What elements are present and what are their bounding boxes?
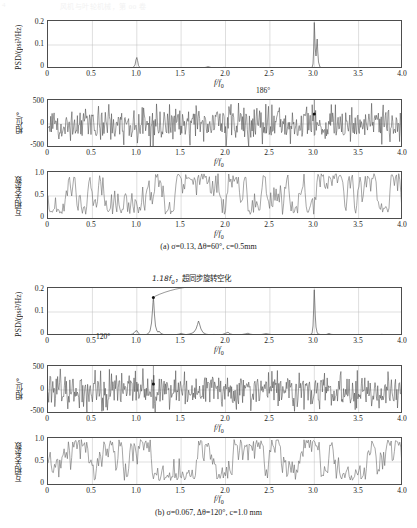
panel-a-phase-xtick-3: 1.5	[168, 148, 192, 157]
panel-b-corr-xtick-2: 1.0	[124, 486, 148, 495]
panel-b-psd-xtick-3: 1.5	[168, 336, 192, 345]
panel-b-corr-trace	[48, 440, 402, 481]
panel-b-phase-ytick-0: 500	[22, 362, 44, 371]
panel-a-caption: (a) σ=0.13, Δθ=60°, c=0.5mm	[0, 242, 417, 251]
panel-a-psd-xtick-2: 1.0	[124, 69, 148, 78]
panel-a-psd-xtick-5: 2.5	[257, 69, 281, 78]
panel-b-phase-xtick-8: 4.0	[390, 414, 414, 423]
panel-b-corr-ytick-1: 0.5	[24, 456, 44, 465]
panel-b-psd-plot	[47, 287, 402, 335]
panel-b-corr-xtick-3: 1.5	[168, 486, 192, 495]
panel-b-psd-xtick-5: 2.5	[257, 336, 281, 345]
panel-b-corr-plot	[47, 437, 402, 485]
panel-a-corr-trace	[48, 174, 402, 215]
panel-a-phase-xlabel: f/f0	[214, 157, 224, 168]
panel-a-phase-xtick-4: 2.0	[213, 148, 237, 157]
panel-b-psd-marker-dot	[152, 296, 155, 299]
panel-a-psd-xtick-4: 2.0	[213, 69, 237, 78]
panel-a-phase-marker-label: 186°	[256, 86, 270, 95]
gridlines	[48, 288, 402, 335]
panel-b-caption: (b) σ=0.067, Δθ=120°, c=1.0 mm	[0, 508, 417, 517]
panel-a-corr-xtick-2: 1.0	[124, 220, 148, 229]
panel-a-phase-xtick-6: 3.0	[301, 148, 325, 157]
panel-b-corr-xtick-8: 4.0	[390, 486, 414, 495]
panel-b-corr-svg	[48, 438, 402, 485]
panel-a-phase-xtick-2: 1.0	[124, 148, 148, 157]
panel-b-phase-trace	[48, 369, 402, 413]
panel-b-psd-svg	[48, 288, 402, 335]
panel-b-psd-xtick-0: 0	[35, 336, 59, 345]
panel-b-psd-trace	[48, 290, 402, 335]
panel-a-corr-plot	[47, 171, 402, 219]
panel-a-psd-xtick-6: 3.0	[301, 69, 325, 78]
panel-a-phase-trace	[48, 103, 402, 146]
panel-b-psd-ylabel: PSD/(psi²/Hz)	[14, 285, 24, 343]
panel-a-corr-svg	[48, 172, 402, 219]
panel-b-phase-xtick-5: 2.5	[257, 414, 281, 423]
panel-a-psd-plot	[47, 20, 402, 68]
panel-b-psd-xtick-6: 3.0	[301, 336, 325, 345]
panel-b-phase-xtick-3: 1.5	[168, 414, 192, 423]
panel-a-corr-ytick-1: 0.5	[24, 190, 44, 199]
panel-a-phase-ytick-1: 0	[22, 118, 44, 127]
page-header-left: 4	[2, 1, 6, 9]
page-header: 4 风机与叶轮机械，第 00 卷	[0, 0, 417, 14]
panel-b-phase-xtick-6: 3.0	[301, 414, 325, 423]
panel-a-corr-xlabel: f/f0	[214, 229, 224, 240]
panel-b-psd-ytick-0: 0.2	[24, 284, 44, 293]
panel-a-psd-xtick-1: 0.5	[79, 69, 103, 78]
panel-b-psd-annotation: 1.18f0，超同步旋转空化	[152, 272, 231, 285]
panel-a-corr-xtick-0: 0	[35, 220, 59, 229]
panel-b-corr-xlabel: f/f0	[214, 494, 224, 505]
panel-a-psd-svg	[48, 21, 402, 68]
panel-a-corr-xtick-7: 3.5	[346, 220, 370, 229]
panel-a-psd-xtick-7: 3.5	[346, 69, 370, 78]
panel-a-psd-ytick-0: 0.2	[24, 17, 44, 26]
panel-b-phase-xtick-1: 0.5	[79, 414, 103, 423]
panel-b-phase-svg	[48, 366, 402, 413]
panel-a-corr-xtick-6: 3.0	[301, 220, 325, 229]
panel-b-phase-plot	[47, 365, 402, 413]
panel-a-psd-xtick-0: 0	[35, 69, 59, 78]
panel-b-corr-xtick-6: 3.0	[301, 486, 325, 495]
panel-b-corr-xtick-5: 2.5	[257, 486, 281, 495]
panel-b-phase-marker-label: 120°	[96, 332, 110, 341]
panel-a-phase-plot	[47, 99, 402, 147]
figure-page: 4 风机与叶轮机械，第 00 卷 PSD/(psi²/Hz) 0.2 0.1 0	[0, 0, 417, 528]
panel-a-psd-ylabel: PSD/(psi²/Hz)	[14, 18, 24, 76]
panel-a-psd-xtick-3: 1.5	[168, 69, 192, 78]
panel-a-phase-ytick-0: 500	[22, 96, 44, 105]
panel-a-psd-xtick-8: 4.0	[390, 69, 414, 78]
page-header-center: 风机与叶轮机械，第 00 卷	[60, 1, 146, 11]
panel-a-corr-xtick-1: 0.5	[79, 220, 103, 229]
panel-a-phase-xtick-0: 0	[35, 148, 59, 157]
panel-b-psd-xtick-2: 1.0	[124, 336, 148, 345]
panel-b-phase-xtick-0: 0	[35, 414, 59, 423]
panel-a-phase-xtick-1: 0.5	[79, 148, 103, 157]
panel-a-corr-ylabel: 互相关系数	[13, 170, 23, 222]
panel-b-phase-xtick-4: 2.0	[213, 414, 237, 423]
panel-a-corr-xtick-3: 1.5	[168, 220, 192, 229]
panel-b-phase-xlabel: f/f0	[214, 423, 224, 434]
panel-b-corr-ytick-0: 1.0	[24, 434, 44, 443]
panel-a-psd-xlabel: f/f0	[214, 78, 224, 89]
panel-b-psd-xtick-4: 2.0	[213, 336, 237, 345]
panel-b-corr-xtick-0: 0	[35, 486, 59, 495]
panel-b-phase-ytick-1: 0	[22, 384, 44, 393]
panel-a-phase-xtick-8: 4.0	[390, 148, 414, 157]
panel-a-phase-xtick-5: 2.5	[257, 148, 281, 157]
panel-a-phase-svg	[48, 100, 402, 147]
panel-a-corr-xtick-8: 4.0	[390, 220, 414, 229]
panel-a-corr-xtick-5: 2.5	[257, 220, 281, 229]
panel-b-psd-marker-leader	[155, 288, 199, 297]
panel-b-psd-ytick-1: 0.1	[24, 306, 44, 315]
panel-a-psd-ytick-1: 0.1	[24, 39, 44, 48]
panel-b-corr-xtick-7: 3.5	[346, 486, 370, 495]
panel-b-psd-xlabel: f/f0	[214, 345, 224, 356]
panel-b-phase-xtick-2: 1.0	[124, 414, 148, 423]
panel-b-corr-ylabel: 互相关系数	[13, 436, 23, 488]
gridlines	[48, 21, 402, 68]
panel-b-phase-xtick-7: 3.5	[346, 414, 370, 423]
panel-b-psd-xtick-7: 3.5	[346, 336, 370, 345]
panel-a-phase-xtick-7: 3.5	[346, 148, 370, 157]
